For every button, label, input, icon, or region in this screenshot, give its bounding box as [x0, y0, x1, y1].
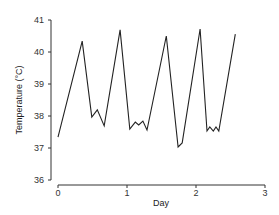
temperature-series-line	[58, 29, 235, 147]
x-axis: 0123	[55, 185, 267, 198]
x-tick-label: 3	[262, 188, 267, 198]
x-tick-label: 2	[193, 188, 198, 198]
x-tick-label: 0	[55, 188, 60, 198]
y-tick-label: 37	[34, 143, 44, 153]
x-tick-label: 1	[124, 188, 129, 198]
y-tick-label: 38	[34, 111, 44, 121]
y-tick-label: 36	[34, 175, 44, 185]
x-axis-label: Day	[153, 198, 170, 208]
y-axis-label: Temperature (°C)	[14, 65, 24, 134]
y-tick-label: 41	[34, 15, 44, 25]
y-tick-label: 40	[34, 47, 44, 57]
y-axis: 363738394041	[34, 15, 51, 185]
temperature-line-chart: 363738394041 0123 Day Temperature (°C)	[0, 0, 279, 215]
y-tick-label: 39	[34, 79, 44, 89]
